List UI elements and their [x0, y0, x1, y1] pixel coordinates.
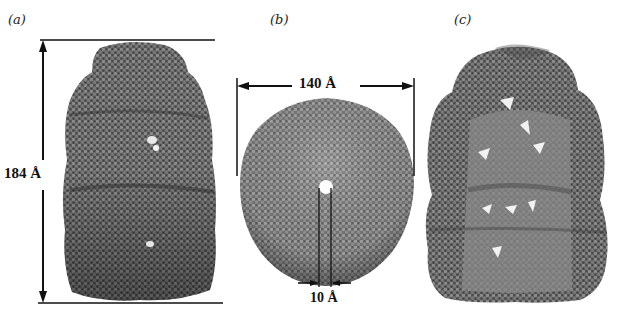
- panel-c-label: (c): [454, 12, 471, 27]
- panel-a-molecule: [63, 42, 216, 301]
- panel-b-molecule: [240, 98, 414, 286]
- panel-b-label: (b): [270, 12, 288, 27]
- pore-dimension-label: 10 Å: [308, 290, 340, 306]
- panel-c-molecule: [426, 44, 608, 302]
- height-dimension-label: 184 Å: [2, 165, 43, 182]
- width-dimension-label: 140 Å: [297, 75, 338, 92]
- figure-canvas: [0, 0, 620, 317]
- panel-a-label: (a): [8, 12, 26, 27]
